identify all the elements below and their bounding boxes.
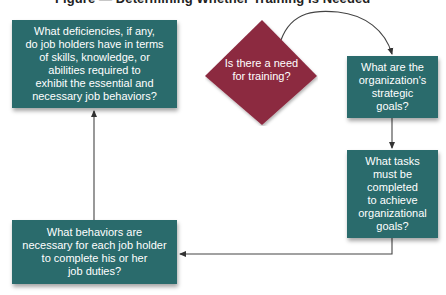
text-line: strategic — [359, 87, 427, 100]
text-line: Is there a need — [225, 57, 298, 70]
text-line: do job holders have in terms — [25, 38, 163, 51]
text-line: must be — [358, 168, 427, 181]
text-line: What behaviors are — [22, 226, 166, 239]
text-line: goals? — [359, 100, 427, 113]
step-text-strategic-goals: What are the organization's strategic go… — [359, 61, 427, 113]
text-line: What tasks — [358, 155, 427, 168]
text-line: job duties? — [22, 265, 166, 278]
text-line: goals? — [358, 220, 427, 233]
text-line: necessary for each job holder — [22, 239, 166, 252]
decision-text: Is there a need for training? — [205, 20, 318, 126]
diagram-title: Figure — Determining Whether Training Is… — [55, 0, 370, 6]
text-line: What deficiencies, if any, — [25, 25, 163, 38]
text-line: exhibit the essential and — [25, 77, 163, 90]
text-line: organizational — [358, 207, 427, 220]
step-box-deficiencies: What deficiencies, if any, do job holder… — [12, 20, 177, 108]
step-box-behaviors: What behaviors are necessary for each jo… — [12, 220, 177, 284]
decision-diamond: Is there a need for training? — [205, 20, 318, 126]
step-text-behaviors: What behaviors are necessary for each jo… — [22, 226, 166, 278]
text-line: to achieve — [358, 194, 427, 207]
step-text-tasks: What tasks must be completed to achieve … — [358, 155, 427, 233]
text-line: for training? — [225, 70, 298, 83]
step-box-strategic-goals: What are the organization's strategic go… — [347, 56, 438, 118]
text-line: abilities required to — [25, 64, 163, 77]
step-box-tasks: What tasks must be completed to achieve … — [347, 150, 438, 238]
text-line: of skills, knowledge, or — [25, 51, 163, 64]
text-line: completed — [358, 181, 427, 194]
text-line: to complete his or her — [22, 252, 166, 265]
text-line: organization's — [359, 74, 427, 87]
text-line: necessary job behaviors? — [25, 90, 163, 103]
step-text-deficiencies: What deficiencies, if any, do job holder… — [25, 25, 163, 103]
text-line: What are the — [359, 61, 427, 74]
connector-tasks-to-behaviors — [180, 238, 392, 254]
